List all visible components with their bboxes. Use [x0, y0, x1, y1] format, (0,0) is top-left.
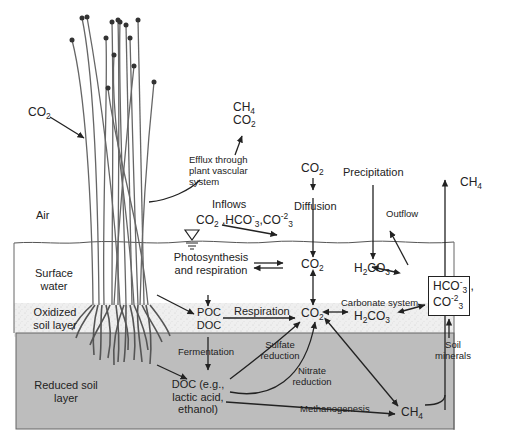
- label-co2-soil: CO2: [301, 307, 324, 323]
- zone-label-oxidized-soil: Oxidizedsoil layer: [20, 306, 90, 331]
- label-h2co3-soil: H2CO3: [354, 310, 390, 326]
- arrow-co2-uptake: [50, 117, 84, 138]
- label-carbonate-system: Carbonate system: [341, 298, 418, 309]
- label-doc-products: DOC (e.g.,lactic acid,ethanol): [168, 378, 228, 416]
- label-ch4-atmosphere: CH4: [460, 176, 482, 192]
- label-outflow: Outflow: [386, 209, 418, 220]
- label-efflux-co2: CO2: [233, 114, 256, 130]
- zone-label-reduced-soil: Reduced soillayer: [26, 379, 106, 404]
- label-co2-air: CO2: [301, 162, 324, 178]
- label-sulfate-reduction: Sulfatereduction: [250, 340, 310, 362]
- label-h2co3-water: H2CO3: [354, 262, 390, 278]
- label-box-co3: CO-23: [433, 294, 463, 312]
- label-precipitation: Precipitation: [343, 166, 404, 179]
- water-surface-line: [14, 241, 454, 243]
- label-fermentation: Fermentation: [178, 347, 234, 358]
- label-nitrate-reduction: Nitratereduction: [282, 366, 342, 388]
- wetland-carbon-cycle-diagram: Air Surfacewater Oxidizedsoil layer Redu…: [0, 0, 506, 445]
- label-photosynthesis-respiration: Photosynthesisand respiration: [166, 251, 256, 276]
- arrow-outflow: [390, 231, 408, 265]
- label-respiration: Respiration: [234, 305, 290, 318]
- label-methanogenesis: Methanogenesis: [300, 404, 370, 415]
- label-poc-doc: POCDOC: [196, 306, 222, 331]
- label-inflows: Inflows: [212, 198, 246, 211]
- label-soil-minerals: Soilminerals: [428, 340, 478, 362]
- label-efflux-text: Efflux throughplant vascularsystem: [189, 155, 248, 188]
- plant-stems: [72, 17, 154, 305]
- label-ch4-soil: CH4: [401, 406, 423, 422]
- label-diffusion: Diffusion: [294, 200, 337, 213]
- zone-label-air: Air: [36, 209, 49, 222]
- label-co2-water: CO2: [301, 258, 324, 274]
- zone-label-surface-water: Surfacewater: [26, 267, 82, 292]
- label-inflow-species: CO2 ,HCO-3,CO-23: [196, 212, 293, 230]
- water-table-symbol: [185, 230, 199, 249]
- arrow-efflux-up: [235, 136, 242, 155]
- label-co2-uptake: CO2: [28, 106, 51, 122]
